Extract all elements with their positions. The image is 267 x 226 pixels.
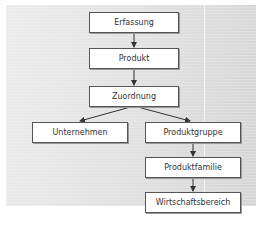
node-wirtschaftsbereich: Wirtschaftsbereich [145,192,241,213]
node-produktgruppe: Produktgruppe [145,122,241,143]
node-unternehmen: Unternehmen [32,122,128,143]
node-erfassung: Erfassung [89,12,179,33]
node-zuordnung: Zuordnung [89,86,179,107]
edge-zuordnung-unternehmen [80,106,134,121]
edge-zuordnung-produktgruppe [134,106,190,121]
node-produkt: Produkt [89,48,179,69]
node-produktfamilie: Produktfamilie [145,157,241,178]
